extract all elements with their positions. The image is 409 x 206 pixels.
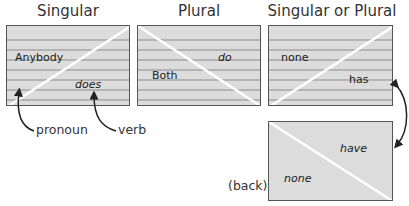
verb-arrow-icon bbox=[94, 95, 116, 131]
flip-arrow-icon bbox=[396, 85, 407, 145]
pronoun-arrow-icon bbox=[18, 92, 34, 131]
annotation-arrows bbox=[0, 0, 409, 206]
